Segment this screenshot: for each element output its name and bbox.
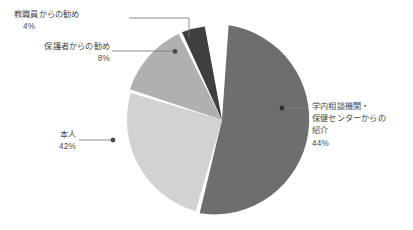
pie-label-faculty-percent: 4% <box>23 21 35 33</box>
pie-label-campus-counseling: 学内相談機関・ 保健センターからの 紹介 44% <box>312 101 386 150</box>
pie-chart-figure: 教職員からの勧め4% 保護者からの勧め 8% 本人 42% 学内相談機関・ 保健… <box>0 0 413 230</box>
pie-label-campus-text-line2: 保健センターからの <box>312 113 386 125</box>
pie-label-faculty-recommendation: 教職員からの勧め4% <box>14 9 80 33</box>
leader-line-faculty <box>129 18 191 42</box>
pie-label-faculty-text: 教職員からの勧め <box>14 9 80 21</box>
pie-label-self-text: 本人 <box>46 129 76 141</box>
pie-label-guardian-text: 保護者からの勧め <box>10 41 110 53</box>
pie-label-campus-text-line3: 紹介 <box>312 125 386 137</box>
leader-line-self <box>79 138 115 143</box>
pie-label-guardian-percent: 8% <box>10 53 110 65</box>
pie-label-self: 本人 42% <box>46 129 76 153</box>
pie-label-self-percent: 42% <box>46 141 76 153</box>
pie-label-campus-text-line1: 学内相談機関・ <box>312 101 386 113</box>
pie-label-guardian-recommendation: 保護者からの勧め 8% <box>10 41 110 65</box>
pie-label-campus-percent: 44% <box>312 138 386 150</box>
